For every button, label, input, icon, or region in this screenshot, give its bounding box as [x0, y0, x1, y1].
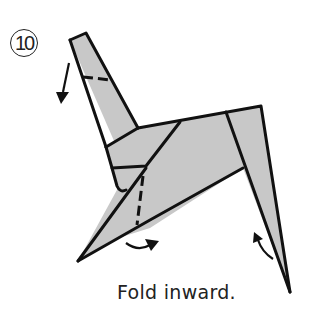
arrow-back-leg-fold-inward [258, 240, 273, 259]
arrow-head-fold-down [63, 63, 69, 92]
instruction-caption: Fold inward. [117, 281, 236, 303]
arrowhead-right-icon [145, 239, 159, 251]
arrow-front-leg-fold-inward [126, 243, 150, 248]
origami-diagram [0, 0, 310, 321]
arrowhead-down-icon [56, 92, 69, 104]
